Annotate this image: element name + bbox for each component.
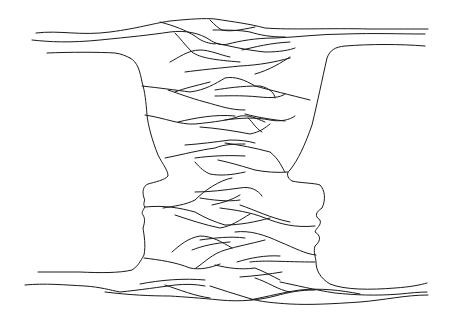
top-strands — [32, 19, 428, 74]
left-profile — [38, 58, 168, 273]
right-profile — [288, 45, 427, 290]
lower-weave — [144, 178, 316, 280]
rubin-vase-drawing — [0, 0, 453, 325]
bottom-strands — [25, 278, 428, 304]
upper-weave — [142, 77, 310, 175]
